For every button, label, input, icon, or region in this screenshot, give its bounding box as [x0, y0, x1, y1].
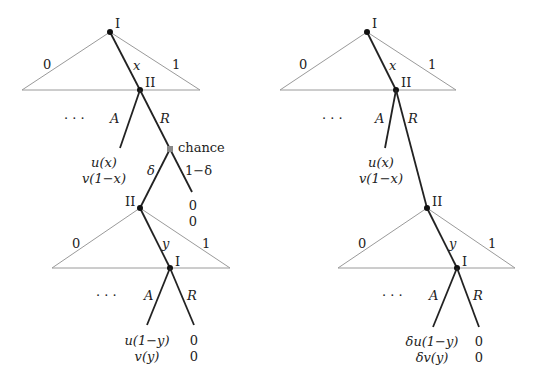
node-player-II	[424, 205, 430, 211]
player-label: I	[115, 16, 120, 31]
game-trees: I II 0 1 x · · · A R u(x) v(1−x) chance …	[0, 0, 536, 382]
edge-label: A	[428, 288, 438, 303]
payoff: u(x)	[368, 155, 394, 170]
node-player-II	[137, 205, 143, 211]
accept-edge	[120, 90, 140, 148]
edge-label: 0	[299, 57, 307, 72]
edge-label: 0	[43, 57, 51, 72]
edge-label: 0	[72, 236, 80, 251]
player-label: II	[432, 194, 442, 209]
player-label: I	[175, 254, 180, 269]
edge-label: A	[143, 288, 153, 303]
edge-label: 1	[488, 236, 496, 251]
edge-label: A	[109, 111, 119, 126]
edge-label: 1−δ	[185, 163, 212, 178]
payoff: 0	[475, 334, 483, 349]
ellipsis: · · ·	[382, 288, 403, 303]
node-player-I	[107, 29, 113, 35]
payoff: u(1−y)	[124, 333, 169, 348]
payoff: 0	[190, 349, 198, 364]
chance-label: chance	[178, 140, 225, 155]
payoff: u(x)	[91, 155, 117, 170]
ellipsis: · · ·	[96, 288, 117, 303]
payoff: v(y)	[135, 349, 160, 364]
edge-label: R	[472, 288, 483, 303]
edge-label: y	[161, 236, 170, 251]
payoff: δu(1−y)	[406, 334, 459, 349]
payoff: v(1−x)	[82, 171, 126, 186]
player-label: II	[125, 194, 135, 209]
ellipsis: · · ·	[322, 111, 343, 126]
player-label: II	[145, 75, 155, 90]
edge-label: A	[374, 111, 384, 126]
edge-label: y	[448, 236, 457, 251]
payoff: 0	[190, 333, 198, 348]
node-player-I	[364, 29, 370, 35]
payoff: 0	[189, 214, 197, 229]
edge-label: R	[407, 111, 418, 126]
edge-label: 0	[358, 236, 366, 251]
edge-label: 1	[172, 57, 180, 72]
ellipsis: · · ·	[64, 111, 85, 126]
chance-node	[167, 146, 173, 152]
edge-label: R	[159, 111, 170, 126]
edge-label: 1	[428, 57, 436, 72]
accept-edge	[385, 90, 396, 148]
edge-label: R	[186, 288, 197, 303]
payoff: v(1−x)	[359, 171, 403, 186]
player-label: I	[372, 16, 377, 31]
edge-label: 1	[202, 236, 210, 251]
player-label: I	[462, 254, 467, 269]
payoff: 0	[475, 350, 483, 365]
edge-label: x	[389, 58, 397, 73]
continue-edge	[140, 149, 170, 208]
left-tree: I II 0 1 x · · · A R u(x) v(1−x) chance …	[22, 16, 230, 364]
player-label: II	[401, 75, 411, 90]
edge-label: x	[133, 58, 141, 73]
edge-label: δ	[147, 163, 155, 178]
payoff: δv(y)	[416, 350, 449, 365]
reject-edge	[396, 90, 427, 208]
right-tree: I II 0 1 x · · · A R u(x) v(1−x) II I 0 …	[280, 16, 515, 365]
payoff: 0	[189, 198, 197, 213]
